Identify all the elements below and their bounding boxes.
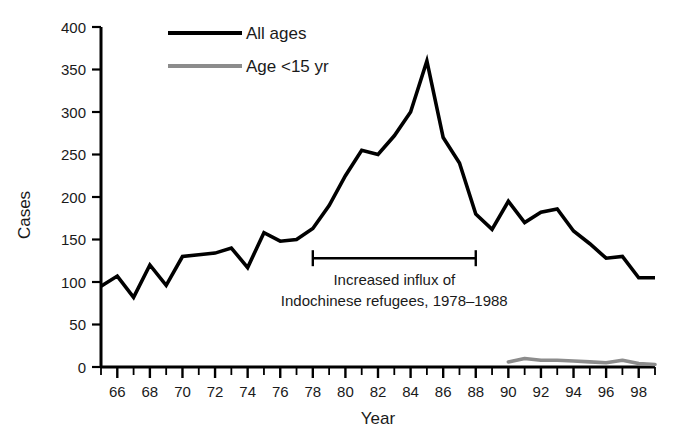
x-tick-label-66: 66 <box>109 383 126 400</box>
x-axis-title: Year <box>361 409 396 428</box>
x-tick-label-72: 72 <box>207 383 224 400</box>
chart-container: 050100150200250300350400 666870727476788… <box>0 0 673 433</box>
x-tick-label-96: 96 <box>598 383 615 400</box>
line-chart: 050100150200250300350400 666870727476788… <box>0 0 673 433</box>
y-tick-label-250: 250 <box>61 146 86 163</box>
x-tick-label-76: 76 <box>272 383 289 400</box>
y-tick-label-400: 400 <box>61 19 86 36</box>
x-tick-label-68: 68 <box>142 383 159 400</box>
legend-label-all-ages: All ages <box>246 24 306 43</box>
x-tick-label-74: 74 <box>239 383 256 400</box>
x-tick-label-80: 80 <box>337 383 354 400</box>
annotation-text-line-2: Indochinese refugees, 1978–1988 <box>281 292 508 309</box>
x-tick-label-98: 98 <box>630 383 647 400</box>
x-tick-label-88: 88 <box>467 383 484 400</box>
y-tick-label-100: 100 <box>61 274 86 291</box>
annotation-text-line-1: Increased influx of <box>333 271 456 288</box>
x-tick-label-84: 84 <box>402 383 419 400</box>
y-tick-label-200: 200 <box>61 189 86 206</box>
y-tick-label-350: 350 <box>61 61 86 78</box>
x-tick-label-92: 92 <box>533 383 550 400</box>
legend-label-age-under-15: Age <15 yr <box>246 57 329 76</box>
x-tick-label-86: 86 <box>435 383 452 400</box>
y-tick-label-300: 300 <box>61 104 86 121</box>
y-tick-label-150: 150 <box>61 231 86 248</box>
y-tick-label-0: 0 <box>78 359 86 376</box>
x-axis-tick-labels: 6668707274767880828486889092949698 <box>109 383 647 400</box>
y-axis-title: Cases <box>15 191 34 239</box>
y-tick-label-50: 50 <box>69 316 86 333</box>
x-tick-label-82: 82 <box>370 383 387 400</box>
x-tick-label-90: 90 <box>500 383 517 400</box>
x-tick-label-78: 78 <box>304 383 321 400</box>
x-tick-label-94: 94 <box>565 383 582 400</box>
x-tick-label-70: 70 <box>174 383 191 400</box>
